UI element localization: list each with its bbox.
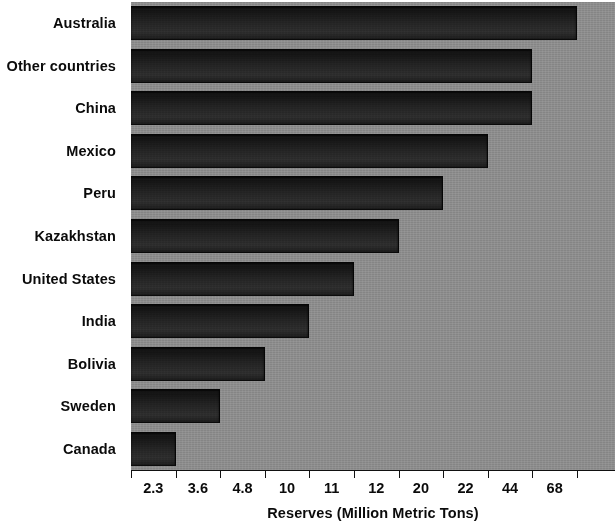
bar (131, 389, 220, 423)
y-tick-label: Australia (0, 2, 124, 45)
bar (131, 91, 532, 125)
x-tick (265, 470, 266, 478)
x-tick-label: 68 (547, 480, 563, 496)
bar-row (131, 45, 615, 88)
bar-row (131, 385, 615, 428)
bar-row (131, 2, 615, 45)
bar (131, 432, 176, 466)
bar-chart: Australia Other countries China Mexico P… (0, 0, 615, 529)
x-tick (488, 470, 489, 478)
x-tick (220, 470, 221, 478)
y-tick-label: Bolivia (0, 342, 124, 385)
x-tick (577, 470, 578, 478)
y-tick-label: China (0, 87, 124, 130)
x-tick-label: 44 (502, 480, 518, 496)
bar-row (131, 342, 615, 385)
x-tick-label: 2.3 (143, 480, 163, 496)
x-tick-label: 11 (324, 480, 339, 496)
bar (131, 6, 577, 40)
bar-row (131, 215, 615, 258)
y-tick-label: Sweden (0, 385, 124, 428)
bar-row (131, 87, 615, 130)
x-tick (399, 470, 400, 478)
x-tick-label: 12 (368, 480, 384, 496)
bar-row (131, 130, 615, 173)
plot-area (131, 2, 615, 470)
x-tick-label: 10 (279, 480, 295, 496)
bar-row (131, 427, 615, 470)
x-tick-label: 20 (413, 480, 429, 496)
bar-row (131, 300, 615, 343)
x-axis: 2.33.64.810111220224468 (131, 470, 615, 471)
x-tick-label: 4.8 (232, 480, 252, 496)
bar (131, 176, 443, 210)
x-tick-label: 3.6 (188, 480, 208, 496)
y-tick-label: Canada (0, 427, 124, 470)
bar (131, 262, 354, 296)
y-tick-label: India (0, 300, 124, 343)
bar-row (131, 172, 615, 215)
bar (131, 49, 532, 83)
y-tick-label: Mexico (0, 130, 124, 173)
y-axis-category-labels: Australia Other countries China Mexico P… (0, 2, 124, 470)
x-tick-label: 22 (457, 480, 473, 496)
bar (131, 219, 399, 253)
x-tick (443, 470, 444, 478)
y-tick-label: Kazakhstan (0, 215, 124, 258)
x-tick (131, 470, 132, 478)
x-tick (354, 470, 355, 478)
bar (131, 347, 265, 381)
y-tick-label: Other countries (0, 45, 124, 88)
y-tick-label: Peru (0, 172, 124, 215)
x-tick (176, 470, 177, 478)
bar (131, 304, 309, 338)
x-axis-title: Reserves (Million Metric Tons) (131, 505, 615, 521)
bar (131, 134, 488, 168)
x-tick (309, 470, 310, 478)
bar-row (131, 257, 615, 300)
bar-series (131, 2, 615, 470)
y-tick-label: United States (0, 257, 124, 300)
x-tick (532, 470, 533, 478)
